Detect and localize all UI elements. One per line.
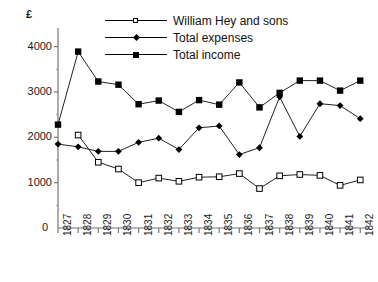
data-point — [116, 166, 122, 172]
x-axis-tick-label: 1828 — [82, 214, 93, 236]
y-axis-tick-label: 1000 — [8, 176, 52, 188]
data-point — [236, 79, 242, 85]
data-point — [135, 101, 141, 107]
data-point — [75, 48, 81, 54]
x-axis-tick-label: 1841 — [344, 214, 355, 236]
x-axis-tick-label: 1838 — [284, 214, 295, 236]
data-point — [196, 174, 202, 180]
plot-area — [0, 0, 378, 282]
data-point — [75, 143, 82, 150]
data-point — [256, 144, 263, 151]
x-axis-tick-label: 1830 — [122, 214, 133, 236]
x-axis-tick-label: 1829 — [102, 214, 113, 236]
data-point — [156, 175, 162, 181]
data-point — [75, 132, 81, 138]
data-point — [297, 77, 303, 83]
data-point — [95, 148, 102, 155]
data-point — [55, 121, 61, 127]
data-point — [55, 141, 62, 148]
data-point — [337, 183, 343, 189]
data-point — [296, 133, 303, 140]
data-point — [196, 97, 202, 103]
data-point — [216, 101, 222, 107]
data-point — [95, 78, 101, 84]
data-point — [176, 109, 182, 115]
data-point — [276, 90, 282, 96]
data-point — [317, 100, 324, 107]
data-point — [136, 180, 142, 186]
x-axis-origin-label: 0 — [42, 221, 48, 233]
data-point — [277, 173, 283, 179]
x-axis-tick-label: 1836 — [243, 214, 254, 236]
y-axis-tick-label: 3000 — [8, 85, 52, 97]
data-point — [256, 104, 262, 110]
data-point — [115, 81, 121, 87]
data-point — [156, 97, 162, 103]
y-axis-tick-label: 2000 — [8, 130, 52, 142]
data-point — [115, 148, 122, 155]
data-point — [216, 174, 222, 180]
x-axis-tick-label: 1842 — [364, 214, 375, 236]
data-point — [337, 102, 344, 109]
x-axis-tick-label: 1831 — [143, 214, 154, 236]
data-point — [297, 172, 303, 178]
y-axis-tick-label: 4000 — [8, 40, 52, 52]
data-point — [257, 186, 263, 192]
data-point — [357, 177, 363, 183]
x-axis-tick-label: 1833 — [183, 214, 194, 236]
data-point — [155, 135, 162, 142]
data-point — [357, 115, 364, 122]
data-point — [236, 151, 243, 158]
data-point — [96, 159, 102, 165]
x-axis-tick-label: 1839 — [304, 214, 315, 236]
data-point — [317, 77, 323, 83]
data-point — [176, 178, 182, 184]
data-point — [237, 171, 243, 177]
x-axis-tick-label: 1832 — [163, 214, 174, 236]
data-point — [216, 123, 223, 130]
data-point — [337, 87, 343, 93]
x-axis-tick-label: 1835 — [223, 214, 234, 236]
x-axis-tick-label: 1840 — [324, 214, 335, 236]
x-axis-tick-label: 1837 — [264, 214, 275, 236]
x-axis-tick-label: 1834 — [203, 214, 214, 236]
chart-container: £ William Hey and sons Total expenses To… — [0, 0, 378, 282]
data-point — [317, 173, 323, 179]
x-axis-tick-label: 1827 — [62, 214, 73, 236]
data-point — [135, 139, 142, 146]
data-point — [357, 77, 363, 83]
